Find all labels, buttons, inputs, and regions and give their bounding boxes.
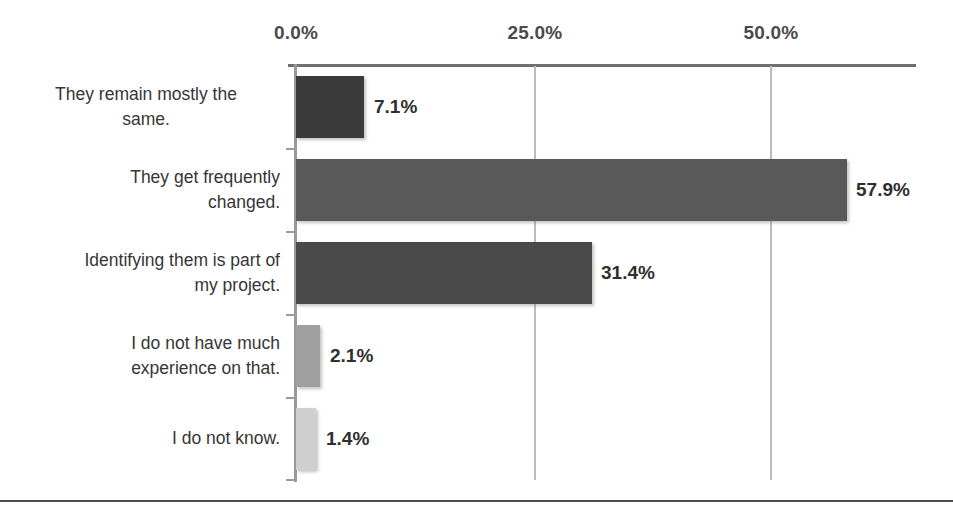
bar-2 [296, 242, 592, 304]
bar-0 [296, 76, 364, 138]
bar-4 [296, 408, 316, 470]
bar-row-4: I do not know. 1.4% [0, 397, 953, 480]
footer-rule [0, 500, 953, 502]
bar-row-2: Identifying them is part of my project. … [0, 231, 953, 314]
bar-row-3: I do not have much experience on that. 2… [0, 314, 953, 397]
bar-row-0: They remain mostly the same. 7.1% [0, 65, 953, 148]
bar-value-label-4: 1.4% [326, 397, 369, 480]
category-label-3: I do not have much experience on that. [12, 314, 280, 397]
category-label-1: They get frequently changed. [12, 148, 280, 231]
bar-1 [296, 159, 847, 221]
category-label-4: I do not know. [12, 397, 280, 480]
bar-value-label-0: 7.1% [374, 65, 417, 148]
category-label-0: They remain mostly the same. [12, 65, 280, 148]
bar-value-label-1: 57.9% [856, 148, 910, 231]
bar-value-label-2: 31.4% [601, 231, 655, 314]
bar-value-label-3: 2.1% [330, 314, 373, 397]
bar-3 [296, 325, 320, 387]
bar-chart-figure: 0.0% 25.0% 50.0% They remain mostly the … [0, 0, 953, 517]
axis-tick-label-2: 50.0% [744, 22, 799, 44]
category-label-2: Identifying them is part of my project. [12, 231, 280, 314]
axis-tick-label-0: 0.0% [274, 22, 318, 44]
axis-tick-label-1: 25.0% [508, 22, 563, 44]
bar-row-1: They get frequently changed. 57.9% [0, 148, 953, 231]
